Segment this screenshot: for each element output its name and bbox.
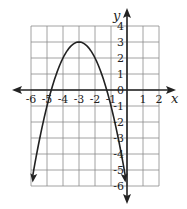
x-tick-label: -3 xyxy=(74,93,85,106)
y-tick-label: 0 xyxy=(117,84,124,97)
x-tick-label: 1 xyxy=(140,93,147,106)
x-axis-label: x xyxy=(171,91,179,106)
x-tick-label: -4 xyxy=(58,93,69,106)
y-tick-label: 2 xyxy=(117,52,124,65)
x-tick-label: 2 xyxy=(156,93,163,106)
grid xyxy=(31,26,159,186)
y-tick-label: -6 xyxy=(113,180,124,193)
y-tick-label: 4 xyxy=(117,20,124,33)
y-tick-label: 3 xyxy=(117,36,124,49)
y-tick-label: -1 xyxy=(113,100,124,113)
x-tick-label: -6 xyxy=(26,93,37,106)
y-tick-label: 1 xyxy=(117,68,124,81)
parabola-graph: x y -6-5-4-3-2-11243210-1-2-3-4-5-6 xyxy=(0,0,187,209)
x-tick-label: -2 xyxy=(90,93,101,106)
